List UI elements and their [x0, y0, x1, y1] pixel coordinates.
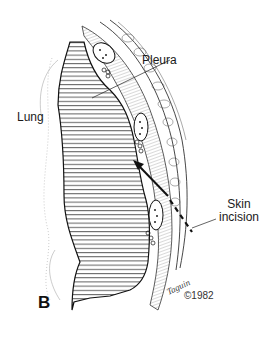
- incision-dashed-line: [170, 200, 192, 232]
- label-lung: Lung: [17, 111, 44, 124]
- chest-wall-cross-section: [0, 0, 274, 342]
- panel-letter: B: [38, 293, 50, 313]
- lung-surface-stipple: [40, 58, 60, 300]
- anatomical-illustration: Pleura Lung Skin incision B Taguin ©1982: [0, 0, 274, 342]
- label-skin-incision: Skin incision: [216, 198, 262, 224]
- label-skin-incision-line2: incision: [216, 211, 262, 224]
- label-pleura: Pleura: [142, 54, 177, 67]
- copyright-notice: ©1982: [184, 290, 214, 301]
- skin-incision-leader-line: [192, 219, 216, 228]
